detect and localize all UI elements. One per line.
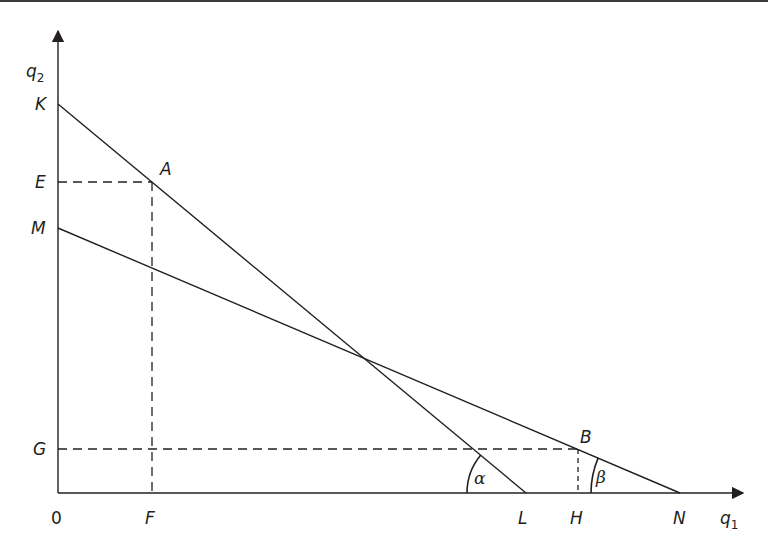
label-G: G xyxy=(33,439,46,459)
quantity-diagram: q2 q1 0 K E M G F L H N A B α β xyxy=(0,0,768,551)
label-N: N xyxy=(673,508,686,528)
label-B: B xyxy=(580,427,592,447)
label-E: E xyxy=(35,172,46,192)
y-axis-label: q2 xyxy=(26,61,44,85)
line-MN xyxy=(58,228,680,493)
label-M: M xyxy=(31,218,46,238)
label-alpha: α xyxy=(474,468,486,488)
origin-label: 0 xyxy=(51,508,62,528)
x-axis-label: q1 xyxy=(720,508,738,532)
line-KL xyxy=(58,104,526,493)
label-beta: β xyxy=(595,467,606,487)
label-K: K xyxy=(35,94,48,114)
label-L: L xyxy=(518,508,527,528)
label-H: H xyxy=(570,508,583,528)
label-A: A xyxy=(159,159,172,179)
label-F: F xyxy=(145,508,155,528)
